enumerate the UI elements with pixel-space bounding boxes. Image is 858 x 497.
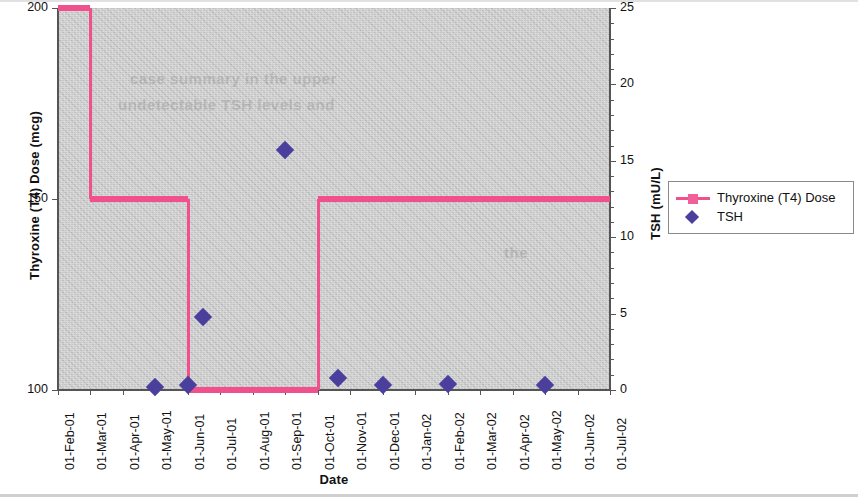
tsh-data-point	[329, 369, 347, 387]
tsh-data-point	[536, 376, 554, 394]
tsh-data-point	[374, 376, 392, 394]
thyroxine-step-riser	[187, 199, 190, 390]
tsh-data-point	[276, 141, 294, 159]
tsh-data-point	[194, 307, 212, 325]
thyroxine-step-riser	[89, 8, 92, 199]
thyroxine-tsh-chart: Thyroxine (T4) Dose (mcg) TSH (mU/L) Dat…	[0, 0, 858, 497]
thyroxine-step-riser	[317, 199, 320, 390]
thyroxine-step-segment	[58, 5, 90, 11]
tsh-diamond-swatch-icon	[676, 210, 710, 224]
legend-label-thyroxine: Thyroxine (T4) Dose	[717, 190, 835, 205]
thyroxine-step-segment	[90, 196, 187, 202]
legend-label-tsh: TSH	[717, 209, 743, 224]
series-layer	[0, 0, 858, 497]
thyroxine-step-segment	[318, 196, 610, 202]
chart-legend: Thyroxine (T4) Dose TSH	[668, 181, 854, 234]
tsh-data-point	[146, 378, 164, 396]
thyroxine-step-segment	[188, 387, 318, 393]
tsh-data-point	[438, 375, 456, 393]
legend-item-tsh[interactable]: TSH	[676, 207, 846, 226]
legend-item-thyroxine[interactable]: Thyroxine (T4) Dose	[676, 188, 846, 207]
thyroxine-line-swatch-icon	[676, 191, 710, 205]
